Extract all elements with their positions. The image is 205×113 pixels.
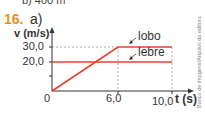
image-credit: Banco de imagens/Arquivo da editora: [196, 16, 202, 108]
label-lebre: lebre: [138, 45, 165, 59]
y-tick-20: 20,0: [4, 55, 44, 67]
x-tick-0: 0: [44, 92, 50, 104]
x-tick-6: 6,0: [106, 92, 121, 104]
y-tick-30: 30,0: [4, 40, 44, 52]
x-tick-10: 10,0: [152, 95, 173, 107]
label-lobo: lobo: [138, 29, 161, 43]
x-axis-label: t (s): [175, 92, 197, 106]
